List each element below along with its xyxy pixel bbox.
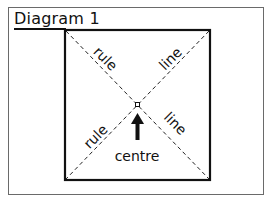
label-centre: centre (115, 148, 160, 164)
label-line-top-right: line (156, 44, 185, 73)
label-rule-bottom-left: rule (80, 121, 111, 152)
diagram-drawing: rule line rule line centre (0, 0, 272, 202)
up-arrow-icon (131, 113, 144, 140)
label-rule-top-left: rule (90, 43, 121, 74)
diagram-figure: Diagram 1 rule line rule line centre (0, 0, 272, 202)
centre-point-icon (136, 103, 140, 107)
